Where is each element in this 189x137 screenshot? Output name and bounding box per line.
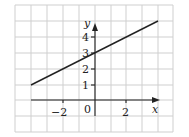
x-tick-label-neg2: −2 [51, 106, 67, 119]
coordinate-plot: y x 0 −2 2 1 2 3 4 [0, 0, 189, 137]
y-axis-arrow-icon [92, 23, 98, 31]
y-tick-label-3: 3 [82, 47, 89, 60]
y-tick-label-2: 2 [82, 63, 89, 76]
x-axis-label: x [152, 103, 159, 116]
y-axis-label: y [83, 17, 91, 30]
origin-label: 0 [84, 103, 91, 116]
y-tick-label-1: 1 [82, 79, 89, 92]
x-tick-label-2: 2 [122, 106, 129, 119]
y-tick-label-4: 4 [82, 31, 89, 44]
